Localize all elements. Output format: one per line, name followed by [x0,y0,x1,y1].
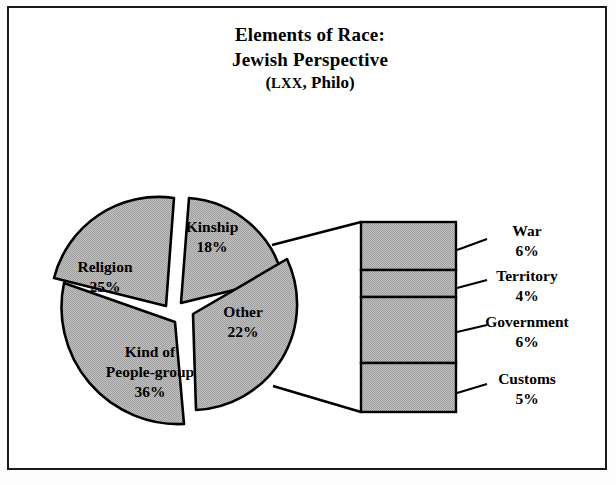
chart-page: Elements of Race: Jewish Perspective (LX… [0,0,616,485]
pie-label-peoplegroup-name-2: People-group [106,363,194,380]
pie-label-peoplegroup-name-1: Kind of [125,343,176,360]
pie-label-peoplegroup-value: 36% [135,383,166,400]
bar-label-government-name: Government [485,313,569,330]
bar-label-territory-name: Territory [496,267,558,284]
pie-label-other-name: Other [223,303,263,320]
bar-label-war-name: War [512,222,541,239]
race-elements-figure: Kinship 18% Other 22% Kind of People-gro… [0,0,616,485]
leader-line-war [457,239,487,250]
bar-label-customs-name: Customs [498,370,556,387]
pie-label-other-value: 22% [228,323,259,340]
pie-label-religion-name: Religion [77,258,132,275]
bar-label-territory-value: 4% [515,287,538,304]
leader-line-government [457,325,487,332]
leader-line-territory [457,280,487,288]
bar-segment-customs[interactable] [361,363,456,412]
bar-segment-government[interactable] [361,297,456,363]
bar-leader-lines [457,239,487,393]
pie-label-kinship-value: 18% [197,238,228,255]
breakout-stacked-bar [361,222,456,412]
bar-label-customs-value: 5% [515,390,538,407]
bar-segment-territory[interactable] [361,270,456,297]
pie-label-kinship-name: Kinship [186,218,239,235]
bar-label-war-value: 6% [515,242,538,259]
bar-label-government-value: 6% [515,333,538,350]
breakout-labels: War 6% Territory 4% Government 6% Custom… [485,222,569,407]
pie-label-religion-value: 25% [90,278,121,295]
leader-line-customs [457,384,487,393]
bar-segment-war[interactable] [361,222,456,270]
